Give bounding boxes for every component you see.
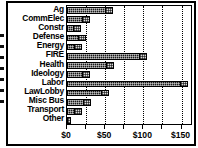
bar-end-marker — [180, 82, 187, 87]
bar-end-marker — [74, 45, 81, 50]
axis-tick-label: $100 — [133, 130, 152, 140]
edge-mark — [0, 45, 4, 48]
cropped-edge-artifacts — [0, 34, 5, 120]
bar-row — [67, 89, 191, 98]
axis-tick-label: $0 — [61, 130, 71, 140]
bar-chart: Ag CommElec Constr Defense Energy FIRE H… — [8, 3, 194, 144]
category-axis-labels: Ag CommElec Constr Defense Energy FIRE H… — [8, 5, 64, 123]
bar-end-marker — [139, 54, 146, 59]
edge-mark — [0, 78, 4, 81]
bar-end-marker — [82, 72, 89, 77]
bar[interactable] — [67, 90, 109, 97]
bar-end-marker — [106, 63, 113, 68]
plot-area — [66, 5, 192, 125]
axis-tick-label: $50 — [97, 130, 111, 140]
bar-row — [67, 34, 191, 43]
axis-tick — [161, 125, 162, 129]
value-axis: $0$50$100$150 — [66, 125, 192, 143]
bar-end-marker — [82, 17, 89, 22]
chart-screenshot: Ag CommElec Constr Defense Energy FIRE H… — [0, 0, 198, 148]
bar[interactable] — [67, 81, 188, 88]
bar-row — [67, 52, 191, 61]
edge-mark — [0, 67, 4, 70]
axis-tick-label: $150 — [171, 130, 190, 140]
bar-row — [67, 107, 191, 116]
axis-tick — [66, 125, 67, 129]
bar-series — [67, 6, 191, 124]
axis-tick — [104, 125, 105, 129]
bar[interactable] — [67, 117, 71, 124]
bar-row — [67, 15, 191, 24]
bar-row — [67, 70, 191, 79]
axis-tick — [85, 125, 86, 129]
bar[interactable] — [67, 53, 147, 60]
bar-row — [67, 24, 191, 33]
bar[interactable] — [67, 16, 90, 23]
bar-row — [67, 6, 191, 15]
bar-row — [67, 61, 191, 70]
bar-row — [67, 98, 191, 107]
bar[interactable] — [67, 108, 82, 115]
edge-mark — [0, 56, 4, 59]
bar[interactable] — [67, 7, 113, 14]
bar-end-marker — [74, 109, 81, 114]
bar-end-marker — [67, 118, 70, 123]
bar-row — [67, 43, 191, 52]
edge-mark — [0, 34, 4, 37]
category-label: Other — [8, 114, 64, 123]
edge-mark — [0, 89, 4, 92]
bar[interactable] — [67, 44, 82, 51]
edge-mark — [0, 100, 4, 103]
axis-tick — [142, 125, 143, 129]
bar[interactable] — [67, 71, 90, 78]
bar-end-marker — [105, 8, 112, 13]
bar-end-marker — [73, 26, 80, 31]
bar[interactable] — [67, 62, 114, 69]
bar[interactable] — [67, 35, 86, 42]
bar-end-marker — [101, 91, 108, 96]
axis-tick — [123, 125, 124, 129]
bar-end-marker — [78, 36, 85, 41]
bar-row — [67, 80, 191, 89]
bar-end-marker — [83, 100, 90, 105]
bar[interactable] — [67, 99, 91, 106]
axis-tick — [181, 125, 182, 129]
bar[interactable] — [67, 25, 81, 32]
